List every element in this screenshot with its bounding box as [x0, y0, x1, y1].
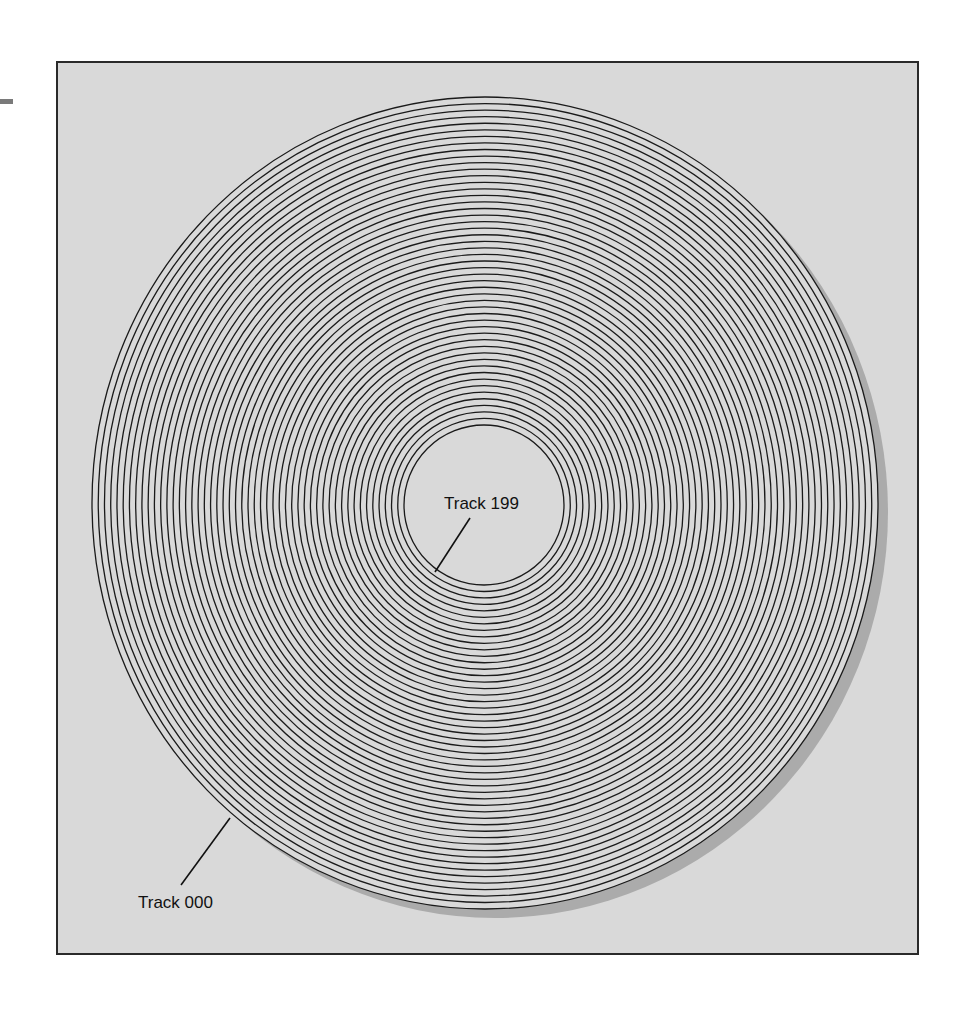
label-track-000: Track 000 — [138, 894, 213, 911]
label-track-199: Track 199 — [444, 495, 519, 512]
leader-line-track-000 — [181, 818, 230, 885]
